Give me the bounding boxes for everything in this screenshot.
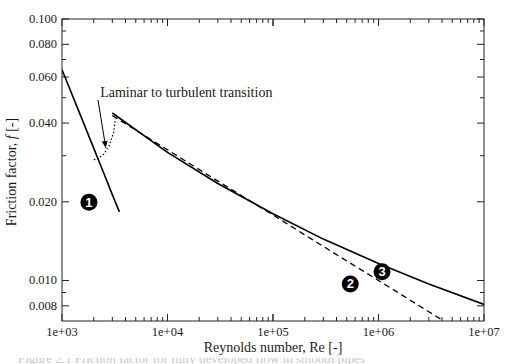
series-badges: 123 [80, 194, 390, 293]
friction-factor-chart: 1e+031e+041e+051e+061e+070.0080.0100.020… [0, 0, 509, 364]
x-tick-label: 1e+06 [363, 325, 394, 339]
y-axis-label: Friction factor, f [-] [4, 118, 19, 226]
series-badge-2: 2 [342, 275, 359, 292]
x-tick-label: 1e+04 [152, 325, 184, 339]
y-tick-label: 0.010 [29, 273, 57, 287]
axis-tick-labels: 1e+031e+041e+051e+061e+070.0080.0100.020… [29, 12, 500, 339]
badge-number: 2 [347, 276, 354, 291]
x-tick-label: 1e+05 [257, 325, 288, 339]
y-tick-label: 0.040 [29, 116, 57, 130]
y-tick-label: 0.100 [29, 12, 57, 26]
badge-number: 3 [378, 264, 385, 279]
y-tick-label: 0.080 [29, 37, 57, 51]
y-axis-label-prefix: Friction factor, [4, 139, 19, 226]
y-axis-label-suffix: [-] [4, 118, 19, 136]
plot-frame [62, 19, 484, 321]
axis-ticks [62, 19, 484, 321]
annotation-arrow-icon [98, 100, 106, 148]
y-tick-label: 0.008 [29, 299, 57, 313]
plot-series-group [62, 70, 484, 321]
caption-text: Figure 2.1 Friction factor for fully dev… [0, 358, 509, 364]
transition-annotation-label: Laminar to turbulent transition [100, 85, 272, 100]
series-badge-3: 3 [374, 263, 391, 280]
y-tick-label: 0.060 [29, 70, 57, 84]
y-tick-label: 0.020 [29, 195, 57, 209]
figure-caption-fragment: Figure 2.1 Friction factor for fully dev… [0, 358, 509, 364]
x-tick-label: 1e+03 [46, 325, 77, 339]
x-tick-label: 1e+07 [468, 325, 499, 339]
badge-number: 1 [85, 195, 92, 210]
series-badge-1: 1 [80, 194, 97, 211]
annotation-group: Laminar to turbulent transition [98, 85, 272, 148]
series-2-line [112, 116, 444, 321]
x-axis-label: Reynolds number, Re [-] [204, 340, 343, 355]
series-3-line [112, 113, 484, 304]
